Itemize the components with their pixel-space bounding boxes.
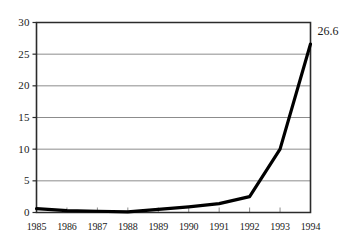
data-point-value-label: 26.6 [318,25,339,37]
chart-background [0,0,354,241]
x-tick-label: 1985 [22,222,52,232]
x-tick-label: 1993 [265,222,295,232]
x-tick-label: 1994 [296,222,326,232]
x-tick-label: 1989 [143,222,173,232]
y-tick-label: 0 [24,207,30,218]
line-chart: 051015202530 198519861987198819891990199… [0,0,354,241]
y-tick-label: 25 [18,49,29,60]
chart-canvas [0,0,354,241]
x-tick-label: 1990 [174,222,204,232]
x-tick-label: 1986 [52,222,82,232]
x-tick-label: 1987 [82,222,112,232]
y-tick-label: 10 [18,144,29,155]
y-tick-label: 5 [24,175,30,186]
y-tick-label: 30 [18,17,29,28]
y-tick-label: 20 [18,80,29,91]
y-tick-label: 15 [18,112,29,123]
x-tick-label: 1992 [235,222,265,232]
x-tick-label: 1988 [113,222,143,232]
x-tick-label: 1991 [204,222,234,232]
